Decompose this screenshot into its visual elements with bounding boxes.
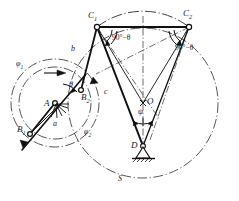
label-point-C2: C2 [183,9,192,20]
diagram-canvas [0,0,239,201]
rotation-arrows [20,40,182,148]
label-point-O: O [147,97,154,106]
label-circle-S: S [118,175,122,183]
label-circle-phi2-sub: 2 [88,132,91,138]
joint-C1 [94,24,99,29]
construction-lines [96,16,189,150]
label-point-B2-sub: 2 [87,97,90,104]
label-point-B2: B2 [81,93,90,104]
label-angle-C1: 90°−θ [112,34,130,42]
label-point-C1-sub: 1 [94,15,97,22]
label-circle-phi2: φ2 [84,128,91,138]
link-a-A-B1 [30,103,55,134]
joint-B1 [28,132,33,137]
label-link-a: a [53,120,57,128]
label-link-c: c [104,88,108,96]
label-point-B1: B1 [17,125,26,136]
label-point-A: A [44,99,50,108]
joint-C2 [186,24,191,29]
pivot-triangle-D [136,147,150,158]
label-angle-C2: 90°−θ [175,44,193,52]
mechanism-figure: A B1 B2 C1 C2 O D a b c θ 90°−θ 90°−θ ψ … [0,0,239,201]
label-point-C2-sub: 2 [189,13,192,20]
label-angle-theta: θ [69,81,73,89]
label-circle-phi1: φ1 [16,60,23,70]
label-circle-phi1-sub: 1 [20,64,23,70]
label-point-B1-sub: 1 [23,129,26,136]
angle-arcs [63,30,180,124]
label-link-b: b [71,45,75,53]
label-point-D: D [131,141,138,150]
label-point-C1: C1 [88,11,97,22]
label-angle-psi: ψ [138,108,143,116]
arrow-phi1 [57,70,66,76]
